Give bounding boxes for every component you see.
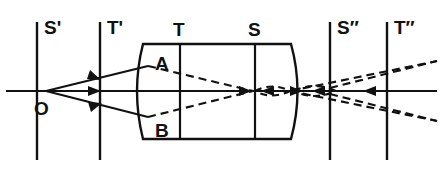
label-ray-hit-b: B bbox=[155, 120, 169, 141]
optics-figure: S' T' T S S″ T″ O A B bbox=[0, 0, 443, 181]
label-t: T bbox=[173, 19, 185, 40]
label-t-double-prime: T″ bbox=[394, 17, 415, 38]
label-s-double-prime: S″ bbox=[337, 17, 359, 38]
label-object-point-o: O bbox=[34, 98, 49, 119]
label-t-prime: T' bbox=[107, 17, 123, 38]
optics-diagram-canvas: S' T' T S S″ T″ O A B bbox=[0, 0, 443, 181]
label-s: S bbox=[248, 19, 261, 40]
label-s-prime: S' bbox=[44, 17, 61, 38]
label-ray-hit-a: A bbox=[155, 53, 169, 74]
